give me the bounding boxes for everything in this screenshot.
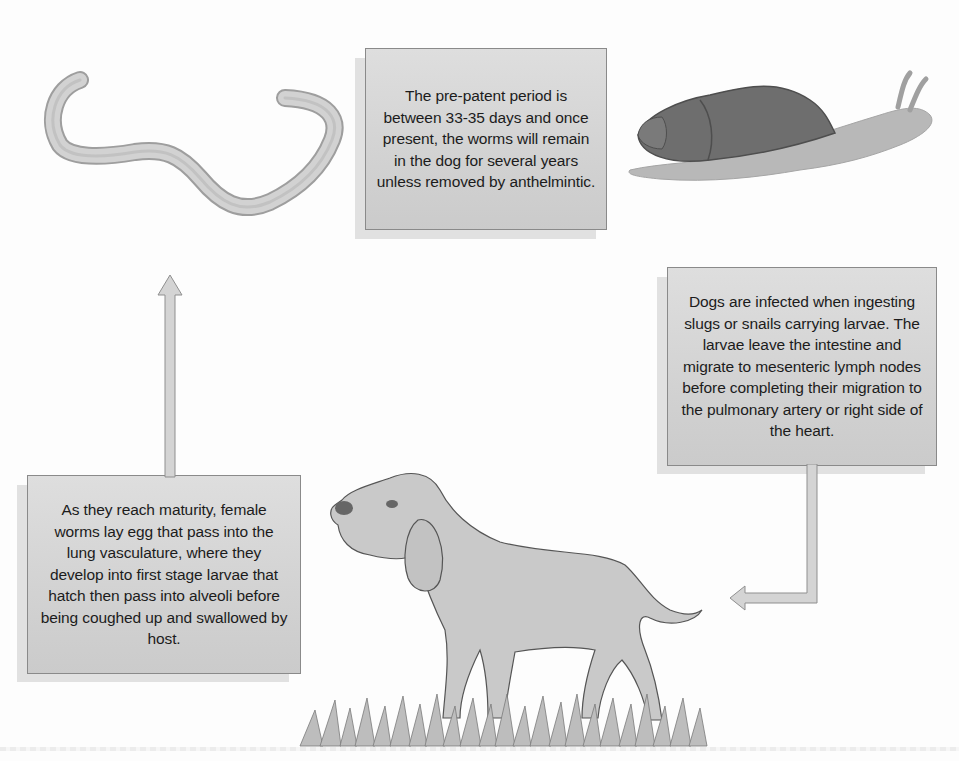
worm-illustration	[40, 60, 350, 230]
arrow-maturity-to-worm	[150, 270, 190, 478]
infection-box: Dogs are infected when ingesting slugs o…	[667, 267, 937, 466]
prepatent-box: The pre-patent period is between 33-35 d…	[365, 48, 607, 230]
prepatent-text: The pre-patent period is between 33-35 d…	[376, 85, 596, 193]
arrow-infection-to-dog	[700, 464, 830, 614]
grass-illustration	[295, 690, 715, 748]
infection-text: Dogs are infected when ingesting slugs o…	[678, 291, 926, 442]
snail-illustration	[620, 45, 959, 195]
bottom-border-strip	[0, 747, 959, 751]
maturity-box: As they reach maturity, female worms lay…	[27, 475, 301, 674]
maturity-text: As they reach maturity, female worms lay…	[38, 499, 290, 650]
